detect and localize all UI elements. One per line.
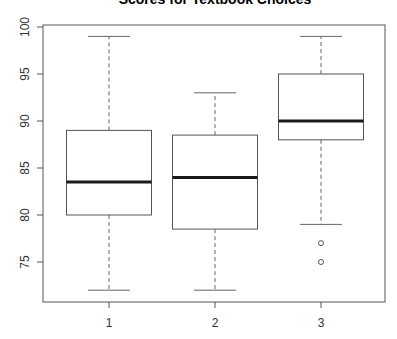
y-tick-label: 80 (18, 208, 32, 222)
iqr-box (279, 74, 364, 140)
y-tick-label: 75 (18, 255, 32, 269)
box-2 (173, 93, 258, 290)
outlier-point (319, 260, 324, 265)
y-tick-label: 90 (18, 114, 32, 128)
y-tick-label: 95 (18, 67, 32, 81)
outlier-point (319, 241, 324, 246)
box-3 (279, 36, 364, 264)
y-tick-label: 100 (18, 17, 32, 37)
y-axis: 7580859095100 (18, 17, 43, 269)
iqr-box (173, 135, 258, 229)
x-tick-label: 1 (106, 316, 113, 330)
iqr-box (67, 130, 152, 215)
boxes (67, 36, 364, 290)
x-tick-label: 2 (212, 316, 219, 330)
box-1 (67, 36, 152, 290)
chart-title: Scores for Textbook Choices (119, 0, 312, 7)
y-tick-label: 85 (18, 161, 32, 175)
boxplot-chart: Scores for Textbook Choices 758085909510… (0, 0, 397, 339)
x-tick-label: 3 (318, 316, 325, 330)
x-axis: 123 (106, 302, 325, 330)
